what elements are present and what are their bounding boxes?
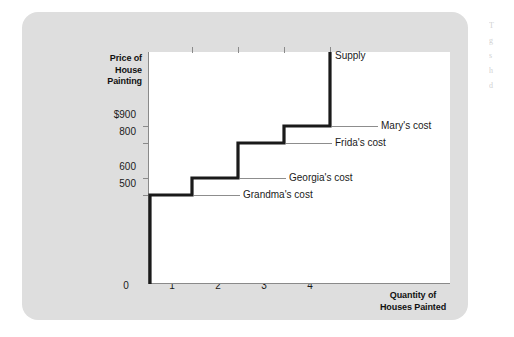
callout-marys-cost: Mary's cost bbox=[381, 120, 431, 131]
supply-step-line bbox=[150, 52, 330, 284]
margin-text-line: g bbox=[489, 33, 514, 48]
margin-text-line: d bbox=[489, 78, 514, 93]
margin-text-line: T bbox=[489, 18, 514, 33]
supply-curve-label: Supply bbox=[335, 50, 366, 61]
x-axis-title-line: Quantity of bbox=[358, 290, 468, 302]
x-tick-label-0: 0 bbox=[114, 280, 138, 291]
y-tick-label-500: 500 bbox=[82, 178, 136, 189]
callout-georgias-cost: Georgia's cost bbox=[289, 172, 353, 183]
plot-area: Supply Mary's cost Frida's cost Georgia'… bbox=[148, 52, 450, 284]
callout-grandmas-cost: Grandma's cost bbox=[243, 189, 313, 200]
margin-text-line: s bbox=[489, 48, 514, 63]
y-axis-title-line: Painting bbox=[70, 76, 142, 88]
supply-curve bbox=[148, 52, 450, 284]
y-tick-label-900: $900 bbox=[82, 109, 136, 120]
y-tick-label-600: 600 bbox=[82, 161, 136, 172]
figure-card: Price of House Painting Quantity of Hous… bbox=[22, 12, 468, 320]
x-axis-title: Quantity of Houses Painted bbox=[358, 290, 468, 313]
callout-fridas-cost: Frida's cost bbox=[335, 137, 386, 148]
y-axis-title-line: House bbox=[70, 65, 142, 77]
page-margin-text: T g s h d bbox=[489, 18, 514, 138]
y-axis-title: Price of House Painting bbox=[70, 53, 142, 88]
margin-text-line: h bbox=[489, 63, 514, 78]
x-axis-title-line: Houses Painted bbox=[358, 302, 468, 314]
y-tick-label-800: 800 bbox=[82, 126, 136, 137]
y-axis-title-line: Price of bbox=[70, 53, 142, 65]
